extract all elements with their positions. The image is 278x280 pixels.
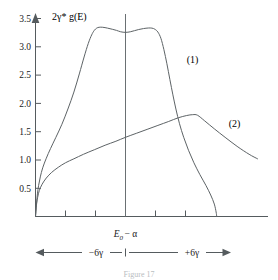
span-arrow-right-head	[223, 249, 232, 256]
figure-caption: Figure 17	[124, 270, 155, 279]
x-center-label-rest: − α	[125, 229, 138, 239]
span-label-right: +6γ	[185, 248, 199, 258]
figure-container: 0.5 1.0 1.5 2.0 2.5 3.0 3.5 2γ* g(E)	[0, 0, 278, 280]
y-tick-label-0: 0.5	[19, 184, 31, 194]
curve-2-label: (2)	[229, 118, 241, 130]
y-axis-ticks	[36, 19, 42, 189]
x-center-label-sub: 0	[120, 234, 124, 242]
span-annotation: −6γ +6γ	[36, 248, 232, 258]
y-tick-label-4: 2.5	[19, 70, 31, 80]
y-tick-label-1: 1.0	[19, 155, 31, 165]
y-tick-label-6: 3.5	[19, 14, 31, 24]
chart-svg: 0.5 1.0 1.5 2.0 2.5 3.0 3.5 2γ* g(E)	[0, 0, 278, 280]
y-tick-label-3: 2.0	[19, 99, 31, 109]
y-axis-title-text: 2γ* g(E)	[52, 11, 87, 23]
y-axis-title: 2γ* g(E)	[52, 11, 87, 23]
span-label-left: −6γ	[89, 248, 103, 258]
x-center-label: E0− α	[113, 229, 138, 242]
y-axis-tick-labels: 0.5 1.0 1.5 2.0 2.5 3.0 3.5	[19, 14, 31, 194]
curve-1-label: (1)	[187, 54, 199, 66]
y-tick-label-2: 1.5	[19, 127, 31, 137]
span-arrow-left-head	[36, 249, 45, 256]
curve-2-path	[36, 115, 258, 217]
y-tick-label-5: 3.0	[19, 42, 31, 52]
